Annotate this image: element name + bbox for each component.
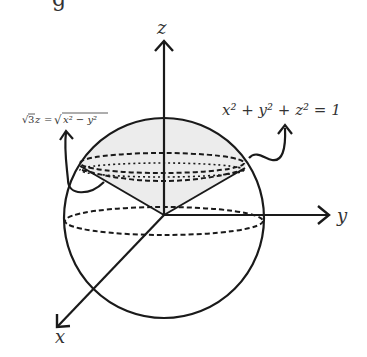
cone-equation-label: √ 3 z = √ x² − y²	[22, 113, 108, 127]
svg-text:√: √	[54, 113, 62, 127]
y-axis-label: y	[336, 205, 348, 226]
x-axis	[58, 215, 164, 326]
svg-text:z: z	[34, 114, 41, 125]
sphere-equation-label: x² + y² + z² = 1	[222, 101, 341, 119]
x-axis-label: x	[55, 326, 65, 347]
svg-text:=: =	[44, 114, 52, 125]
sphere-cone-diagram: g z y x √ 3 z = √ x² − y² x² + y² + z² =…	[0, 0, 367, 357]
partial-heading-glyph: g	[52, 0, 66, 11]
z-axis-label: z	[156, 17, 167, 38]
svg-text:x² − y²: x² − y²	[63, 114, 97, 125]
svg-text:3: 3	[28, 114, 34, 125]
